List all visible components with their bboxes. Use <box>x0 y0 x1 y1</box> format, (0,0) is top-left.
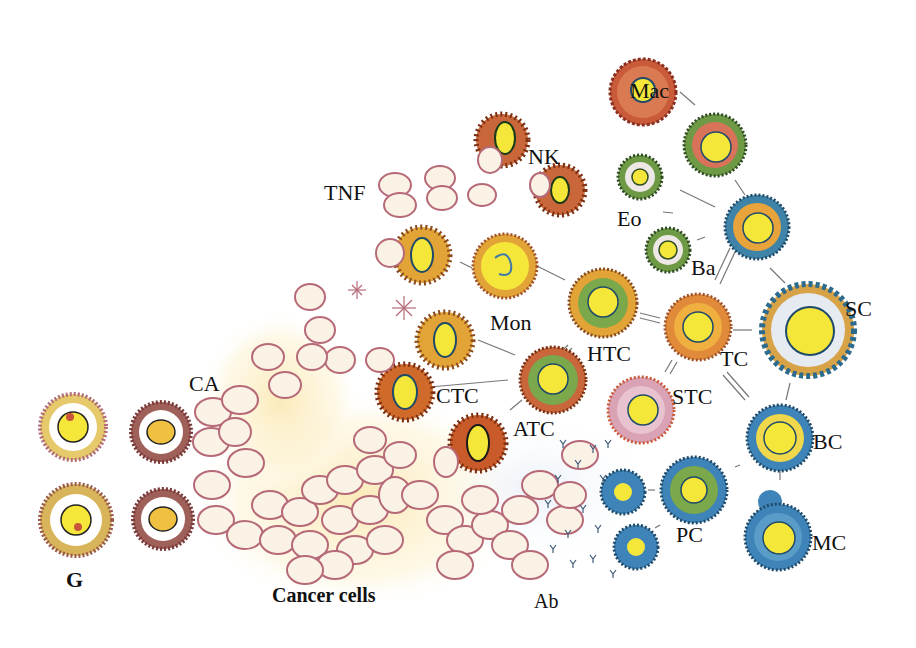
label-stc: STC <box>672 386 712 408</box>
label-pc: PC <box>676 524 703 546</box>
immune-diagram: Mac NK TNF Eo Ba Mon SC HTC TC CTC CA ST… <box>0 0 916 648</box>
label-eo: Eo <box>617 208 641 230</box>
lymphoid-progenitor-cell <box>725 195 789 259</box>
label-mon: Mon <box>490 312 532 334</box>
label-sc: SC <box>845 298 872 320</box>
granulocyte-cell-1 <box>40 394 106 460</box>
memory-cell <box>745 490 811 570</box>
basophil-cell <box>646 228 690 272</box>
granulocyte-cell-4 <box>133 489 193 549</box>
helper-t-cell <box>569 269 637 337</box>
label-tnf: TNF <box>324 182 366 204</box>
label-nk: NK <box>528 146 560 168</box>
label-bc: BC <box>813 431 842 453</box>
plasma-cell <box>661 457 727 523</box>
label-tc: TC <box>720 348 748 370</box>
stem-cell <box>762 284 854 376</box>
label-ca: CA <box>189 373 220 395</box>
label-mc: MC <box>812 532 846 554</box>
plasma-cell-small-2 <box>614 525 658 569</box>
eosinophil-cell <box>618 155 662 199</box>
label-mac: Mac <box>630 80 669 102</box>
label-htc: HTC <box>587 343 631 365</box>
monocyte-cell <box>473 234 537 298</box>
label-ctc: CTC <box>436 385 479 407</box>
label-ab: Ab <box>534 591 558 611</box>
label-cancer-cells: Cancer cells <box>272 585 376 605</box>
plasma-cell-small-1 <box>601 470 645 514</box>
diagram-illustration <box>0 0 916 648</box>
label-ba: Ba <box>691 257 715 279</box>
myeloid-progenitor-cell <box>684 114 746 176</box>
label-g: G <box>66 569 83 591</box>
granulocyte-cell-2 <box>40 484 112 556</box>
activated-t-cell <box>520 347 586 413</box>
b-cell <box>747 405 813 471</box>
label-atc: ATC <box>513 418 555 440</box>
granulocyte-cell-3 <box>131 402 191 462</box>
activated-macrophage-2 <box>417 312 473 368</box>
cytotoxic-t-cell <box>377 364 433 420</box>
suppressor-t-cell <box>608 377 674 443</box>
cytokine-burst <box>348 281 416 320</box>
